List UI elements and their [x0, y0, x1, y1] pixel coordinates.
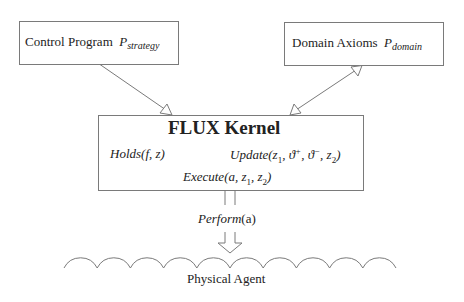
- physical-agent-label: Physical Agent: [187, 271, 265, 287]
- holds-predicate: Holds(f, z): [110, 146, 165, 162]
- control-program-symbol: P: [119, 34, 127, 49]
- physical-agent-arches: [64, 258, 396, 268]
- update-sep2: , ϑ: [301, 147, 314, 162]
- execute-close: ): [267, 169, 271, 184]
- execute-name: Execute: [183, 169, 224, 184]
- update-close: ): [336, 147, 340, 162]
- perform-args: (a): [241, 211, 255, 226]
- update-sep1: , ϑ: [282, 147, 295, 162]
- execute-args: (a, z: [224, 169, 246, 184]
- domain-axioms-symbol: P: [384, 35, 392, 50]
- arrow-domain-kernel-bidirectional: [290, 66, 362, 116]
- execute-sep: , z: [251, 169, 263, 184]
- update-sep3: , z: [320, 147, 332, 162]
- domain-axioms-text: Domain Axioms: [292, 35, 378, 50]
- arrow-control-to-kernel: [100, 65, 172, 116]
- domain-axioms-label: Domain Axioms Pdomain: [292, 35, 422, 52]
- perform-label: Perform(a): [198, 211, 256, 227]
- perform-name: Perform: [198, 211, 241, 226]
- agent-arch-path: [64, 258, 396, 268]
- execute-predicate: Execute(a, z1, z2): [183, 169, 271, 187]
- control-program-subscript: strategy: [127, 40, 159, 51]
- flux-kernel-title: FLUX Kernel: [168, 117, 280, 139]
- control-program-label: Control Program Pstrategy: [25, 34, 159, 51]
- update-name: Update: [230, 147, 268, 162]
- holds-args: (f, z): [141, 146, 165, 161]
- holds-name: Holds: [110, 146, 141, 161]
- control-program-text: Control Program: [25, 34, 113, 49]
- update-args: (z: [268, 147, 277, 162]
- update-predicate: Update(z1, ϑ+, ϑ−, z2): [230, 146, 341, 165]
- domain-axioms-subscript: domain: [392, 41, 422, 52]
- flux-architecture-diagram: Control Program Pstrategy Domain Axioms …: [0, 0, 464, 302]
